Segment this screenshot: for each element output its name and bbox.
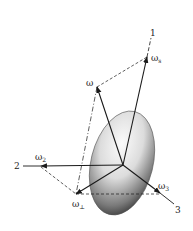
axis-3-line (160, 193, 174, 204)
axis-3-label: 3 (175, 205, 181, 215)
omega-2-label: ω2 (35, 152, 46, 163)
axis-1-label: 1 (150, 28, 156, 38)
omega-s-label: ωs (151, 53, 161, 64)
rigid-body-diagram: 1 2 3 ω ωs ω2 ω⊥ ω3 (0, 0, 193, 231)
dashed-omega-to-omega-s (97, 57, 147, 87)
omega-3-label: ω3 (158, 181, 169, 192)
omega-perp-label: ω⊥ (72, 199, 85, 210)
dashed-omega-2-to-omega-perp (41, 167, 76, 194)
omega-label: ω (86, 78, 93, 88)
axis-2-label: 2 (14, 161, 20, 171)
